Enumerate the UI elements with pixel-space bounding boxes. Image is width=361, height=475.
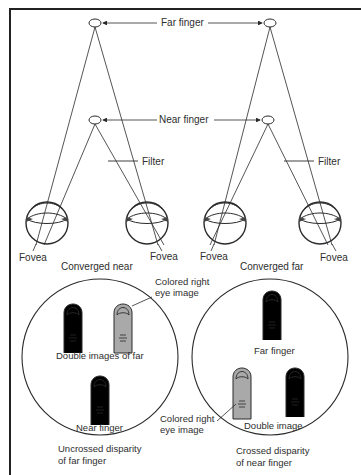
fovea-label: Fovea (19, 252, 47, 263)
colored-right-callout-top-2: eye image (155, 287, 199, 298)
near-finger-circle-label: Near finger (76, 422, 123, 433)
filter-label-left: Filter (142, 156, 164, 167)
stereo-disparity-figure: Far finger Near finger Filter Filter Fov… (0, 0, 361, 475)
double-images-of-far-label: Double images of far (56, 350, 144, 361)
crossed-caption-2: of near finger (236, 457, 292, 468)
colored-right-callout-bottom: Colored right (160, 413, 214, 424)
near-finger-label: Near finger (159, 114, 208, 125)
right-panel-rays (204, 19, 341, 245)
left-panel-rays (26, 19, 168, 245)
colored-right-callout-bottom-2: eye image (160, 424, 204, 435)
uncrossed-caption-2: of far finger (58, 455, 106, 466)
fovea-label: Fovea (200, 251, 228, 262)
far-finger-circle-label: Far finger (254, 345, 295, 356)
far-finger-label: Far finger (161, 17, 204, 28)
converged-far-caption: Converged far (240, 261, 303, 272)
filter-label-right: Filter (318, 156, 340, 167)
double-image-label: Double image (244, 420, 303, 431)
diagram-drawing (0, 0, 361, 475)
uncrossed-caption-1: Uncrossed disparity (58, 443, 141, 454)
colored-right-callout-top: Colored right (155, 276, 209, 287)
crossed-caption-1: Crossed disparity (236, 445, 309, 456)
fovea-label: Fovea (320, 252, 348, 263)
converged-near-caption: Converged near (61, 261, 133, 272)
fovea-label: Fovea (150, 251, 178, 262)
